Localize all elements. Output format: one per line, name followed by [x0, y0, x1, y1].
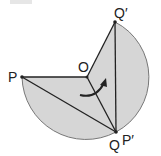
label-Qprime: Q′ [114, 5, 128, 21]
point-Q [114, 130, 118, 134]
point-P [20, 75, 24, 79]
rotation-diagram: P O Q′ Q P′ [0, 0, 161, 156]
label-O: O [78, 59, 89, 75]
label-Pprime: P′ [122, 132, 134, 148]
point-O [86, 76, 89, 79]
label-Q: Q [109, 137, 120, 153]
label-P: P [8, 69, 17, 85]
corner-box [10, 0, 32, 4]
